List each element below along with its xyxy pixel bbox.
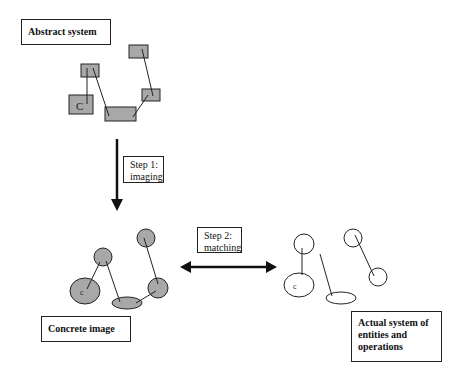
step2-line2: matching — [204, 242, 241, 254]
step1-line2: imaging — [130, 171, 163, 183]
abstract-node-upper-left — [81, 64, 99, 77]
actual-edges — [302, 235, 374, 296]
concrete-node-c-label: c — [80, 288, 84, 297]
abstract-node-bottom — [105, 107, 136, 121]
actual-system-graph — [284, 229, 387, 304]
edge — [133, 95, 148, 117]
abstract-node-c-label: C — [76, 100, 83, 112]
actual-system-line2: entities and — [358, 329, 441, 341]
step2-double-arrow — [180, 261, 277, 273]
concrete-image-text: Concrete image — [48, 323, 130, 335]
actual-system-label: Actual system of entities and operations — [351, 311, 442, 362]
concrete-node-c — [70, 278, 100, 304]
actual-system-line1: Actual system of — [358, 317, 441, 329]
edge — [355, 235, 374, 276]
edge — [106, 261, 120, 302]
actual-node-bottom — [326, 292, 356, 304]
concrete-node-bottom — [112, 297, 142, 309]
edge — [320, 254, 332, 296]
step2-line1: Step 2: — [204, 230, 241, 242]
abstract-system-text: Abstract system — [28, 26, 110, 38]
actual-node-top-left — [294, 234, 314, 254]
concrete-image-label: Concrete image — [41, 316, 131, 342]
abstract-node-top-right — [129, 45, 148, 58]
actual-system-line3: operations — [358, 341, 441, 353]
abstract-system-label: Abstract system — [21, 19, 111, 45]
edge — [93, 68, 109, 116]
step2-label: Step 2: matching — [197, 227, 242, 253]
step1-line1: Step 1: — [130, 159, 163, 171]
step1-label: Step 1: imaging — [123, 156, 164, 183]
actual-node-c-label: c — [293, 282, 297, 291]
actual-node-c — [284, 273, 314, 297]
concrete-node-right — [148, 278, 168, 298]
step1-arrow — [111, 139, 123, 211]
concrete-node-middle — [94, 248, 112, 266]
